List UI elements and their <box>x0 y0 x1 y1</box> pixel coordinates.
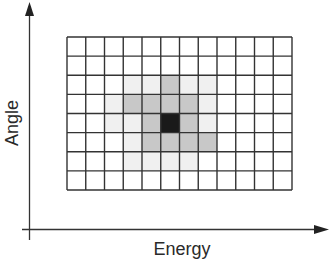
grid-cell <box>255 75 274 94</box>
grid-cell <box>217 171 236 190</box>
grid-cell <box>67 133 86 152</box>
x-axis-label: Energy <box>153 239 210 260</box>
grid-cell <box>217 94 236 113</box>
grid-cell <box>255 37 274 56</box>
grid-cell <box>273 94 292 113</box>
grid-cell <box>236 152 255 171</box>
grid-cell <box>142 114 161 133</box>
grid-cell <box>123 37 142 56</box>
grid-cell <box>236 75 255 94</box>
grid-cell <box>217 75 236 94</box>
grid-cell <box>86 37 105 56</box>
grid-cell <box>161 75 180 94</box>
grid-cell <box>123 114 142 133</box>
grid-cell <box>198 75 217 94</box>
grid-cell <box>236 114 255 133</box>
grid-cell <box>180 94 199 113</box>
grid-cell <box>198 37 217 56</box>
grid-cell <box>161 56 180 75</box>
grid-cell <box>198 56 217 75</box>
grid-cell <box>123 75 142 94</box>
grid-cell <box>67 152 86 171</box>
grid-cell <box>105 94 124 113</box>
x-axis <box>22 225 329 234</box>
grid-cell <box>217 37 236 56</box>
y-axis-arrow-icon <box>25 2 34 16</box>
grid-cell <box>123 152 142 171</box>
grid-cell <box>67 37 86 56</box>
grid-cell <box>217 114 236 133</box>
grid-cell <box>217 152 236 171</box>
grid-cell <box>142 94 161 113</box>
grid-cell <box>105 37 124 56</box>
grid-cell <box>105 133 124 152</box>
grid-cell <box>180 133 199 152</box>
grid-cell <box>273 114 292 133</box>
grid-cell <box>180 56 199 75</box>
grid-cell <box>255 114 274 133</box>
grid-cell <box>180 152 199 171</box>
grid-cell <box>67 171 86 190</box>
grid-cell <box>198 114 217 133</box>
grid-cell <box>255 152 274 171</box>
grid-cell <box>161 152 180 171</box>
grid-cell <box>198 171 217 190</box>
grid-cell <box>198 94 217 113</box>
grid-cell <box>273 171 292 190</box>
grid-cell <box>123 133 142 152</box>
grid-cell <box>123 56 142 75</box>
grid-cell <box>217 56 236 75</box>
y-axis-label: Angle <box>2 100 23 146</box>
grid-cell <box>161 94 180 113</box>
grid-cell <box>86 133 105 152</box>
grid-cell <box>180 171 199 190</box>
grid-cell <box>273 133 292 152</box>
grid-cell <box>236 56 255 75</box>
grid-cell <box>180 114 199 133</box>
grid-cell <box>161 171 180 190</box>
grid-cell <box>123 171 142 190</box>
grid-cell <box>86 75 105 94</box>
grid-cell <box>273 75 292 94</box>
grid-cell <box>105 152 124 171</box>
grid-cell <box>236 37 255 56</box>
grid-cell <box>67 75 86 94</box>
grid-cell <box>255 171 274 190</box>
grid-cell <box>67 56 86 75</box>
grid-cell <box>198 133 217 152</box>
grid-cell <box>105 114 124 133</box>
grid-cell <box>255 56 274 75</box>
grid-cell <box>273 56 292 75</box>
grid-cell <box>86 94 105 113</box>
grid-cell <box>180 37 199 56</box>
energy-angle-grid-diagram <box>0 0 331 261</box>
grid-cell <box>161 37 180 56</box>
grid-cell <box>255 133 274 152</box>
grid-cell <box>273 37 292 56</box>
grid-cell <box>273 152 292 171</box>
grid-cell <box>255 94 274 113</box>
grid-cell <box>236 94 255 113</box>
x-axis-arrow-icon <box>314 225 329 234</box>
peak-cell <box>161 114 180 133</box>
grid-cell <box>123 94 142 113</box>
grid-cell <box>67 114 86 133</box>
grid-cell <box>86 56 105 75</box>
grid-cell <box>142 133 161 152</box>
grid-cell <box>86 171 105 190</box>
grid-cell <box>180 75 199 94</box>
grid-cell <box>161 133 180 152</box>
grid-cell <box>142 56 161 75</box>
grid-cell <box>86 152 105 171</box>
grid-cell <box>236 171 255 190</box>
y-axis <box>25 2 34 240</box>
grid-cell <box>67 94 86 113</box>
grid-cell <box>142 171 161 190</box>
grid-cell <box>105 171 124 190</box>
grid-cell <box>142 152 161 171</box>
grid-cell <box>105 75 124 94</box>
grid-cell <box>105 56 124 75</box>
grid-cell <box>198 152 217 171</box>
grid-cell <box>86 114 105 133</box>
grid-cell <box>217 133 236 152</box>
